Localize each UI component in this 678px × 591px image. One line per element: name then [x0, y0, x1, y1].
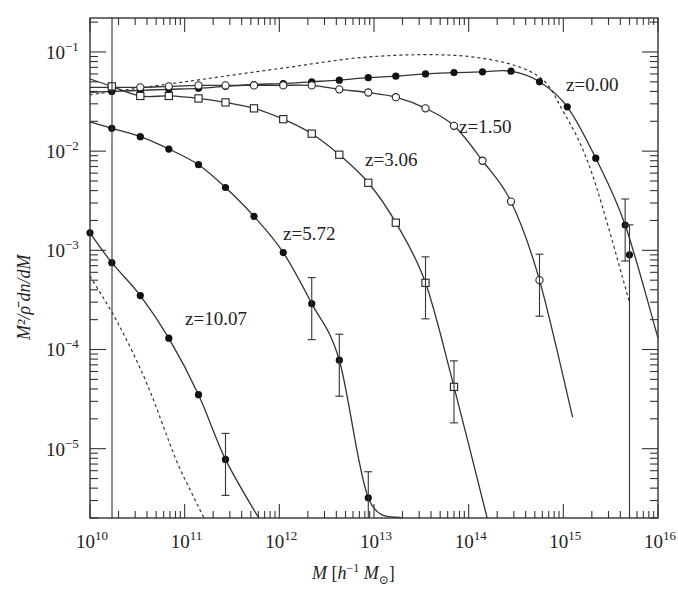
data-point	[137, 133, 144, 140]
data-point	[365, 74, 372, 81]
x-tick-label: 1016	[644, 528, 677, 552]
data-point	[222, 99, 229, 106]
data-point	[536, 78, 543, 85]
data-point	[365, 89, 372, 96]
data-point	[450, 69, 457, 76]
data-point	[137, 84, 144, 91]
x-tick-label: 1011	[171, 528, 203, 552]
y-tick-labels: 10−110−210−310−410−5	[46, 39, 79, 460]
data-point	[280, 116, 287, 123]
data-point	[195, 161, 202, 168]
y-tick-label: 10−4	[46, 336, 79, 360]
data-point	[250, 105, 257, 112]
data-point	[365, 179, 372, 186]
data-point	[137, 292, 144, 299]
annotation-z3: z=3.06	[365, 149, 417, 170]
x-tick-label: 1010	[76, 528, 108, 552]
curve-z-3-06	[90, 79, 487, 518]
data-point	[392, 219, 399, 226]
data-point	[250, 213, 257, 220]
x-tick-label: 1014	[455, 528, 488, 552]
data-point	[336, 86, 343, 93]
annotation-z5: z=5.72	[283, 223, 335, 244]
mass-function-chart: 1010101110121013101410151016 10−110−210−…	[0, 0, 678, 591]
data-point	[507, 68, 514, 75]
x-tick-labels: 1010101110121013101410151016	[76, 528, 677, 552]
x-tick-label: 1015	[549, 528, 581, 552]
data-point	[195, 82, 202, 89]
curve-z-0-00	[90, 71, 658, 338]
data-point	[308, 130, 315, 137]
data-point	[165, 145, 172, 152]
x-tick-label: 1012	[265, 528, 297, 552]
data-point	[195, 391, 202, 398]
data-point	[564, 103, 571, 110]
data-point	[137, 92, 144, 99]
data-point	[507, 198, 514, 205]
data-point	[592, 155, 599, 162]
data-point	[308, 82, 315, 89]
data-point	[336, 77, 343, 84]
y-axis-label: M²/ρ̄ dn/dM	[14, 253, 34, 341]
annotation-z1: z=1.50	[459, 116, 511, 137]
data-point	[422, 70, 429, 77]
x-axis-label: M [h−1 M⊙]	[311, 561, 395, 587]
data-points	[86, 68, 633, 518]
data-point	[165, 92, 172, 99]
data-point	[422, 105, 429, 112]
data-point	[336, 151, 343, 158]
data-point	[165, 83, 172, 90]
data-point	[280, 82, 287, 89]
data-point	[222, 184, 229, 191]
y-tick-label: 10−5	[46, 436, 79, 460]
fit-curves	[90, 55, 658, 518]
data-point	[392, 94, 399, 101]
data-point	[165, 335, 172, 342]
y-tick-label: 10−3	[46, 237, 79, 261]
data-point	[450, 122, 457, 129]
data-point	[479, 157, 486, 164]
data-point	[280, 249, 287, 256]
data-point	[392, 73, 399, 80]
data-point	[195, 95, 202, 102]
x-tick-label: 1013	[360, 528, 392, 552]
data-point	[222, 82, 229, 89]
y-tick-label: 10−1	[46, 39, 79, 63]
data-point	[250, 82, 257, 89]
annotation-z0: z=0.00	[566, 74, 618, 95]
annotation-z10: z=10.07	[185, 308, 247, 329]
data-point	[479, 68, 486, 75]
curve-z-10-07	[90, 233, 259, 518]
y-tick-label: 10−2	[46, 138, 79, 162]
